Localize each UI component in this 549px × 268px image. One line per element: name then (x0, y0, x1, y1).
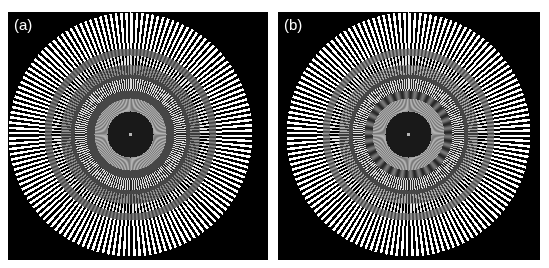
panel-a: (a) (8, 12, 268, 260)
siemens-star-image-a (8, 12, 268, 260)
siemens-star-image-b (278, 12, 540, 260)
panel-label-b: (b) (284, 16, 302, 33)
panel-b: (b) (278, 12, 540, 260)
panel-label-a: (a) (14, 16, 32, 33)
